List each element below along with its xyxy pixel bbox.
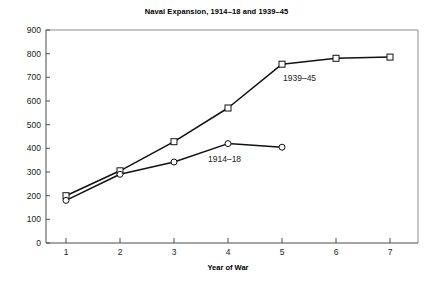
series-markers-1939-45 bbox=[63, 54, 393, 199]
x-tick-label: 7 bbox=[388, 247, 393, 257]
data-point-marker bbox=[171, 139, 177, 145]
data-point-marker bbox=[63, 197, 69, 203]
x-tick-label: 4 bbox=[226, 247, 231, 257]
y-tick-label: 100 bbox=[27, 214, 41, 224]
series-line-1914-18 bbox=[66, 144, 282, 201]
x-axis-tick-labels: 1 2 3 4 5 6 7 bbox=[64, 247, 393, 257]
data-point-marker bbox=[225, 105, 231, 111]
x-tick-label: 2 bbox=[118, 247, 123, 257]
y-tick-label: 800 bbox=[27, 49, 41, 59]
data-point-marker bbox=[387, 54, 393, 60]
y-tick-label: 200 bbox=[27, 191, 41, 201]
x-axis-ticks bbox=[66, 238, 390, 243]
x-tick-label: 6 bbox=[334, 247, 339, 257]
y-tick-label: 500 bbox=[27, 120, 41, 130]
y-tick-label: 900 bbox=[27, 25, 41, 35]
x-tick-label: 1 bbox=[64, 247, 69, 257]
series-annotation-1939-45: 1939–45 bbox=[283, 73, 316, 83]
y-tick-label: 600 bbox=[27, 96, 41, 106]
y-axis-ticks bbox=[46, 30, 50, 243]
y-tick-label: 400 bbox=[27, 143, 41, 153]
data-point-marker bbox=[117, 171, 123, 177]
data-point-marker bbox=[279, 144, 285, 150]
x-tick-label: 5 bbox=[280, 247, 285, 257]
data-point-marker bbox=[279, 61, 285, 67]
y-tick-label: 0 bbox=[36, 238, 41, 248]
data-point-marker bbox=[333, 55, 339, 61]
data-point-marker bbox=[225, 141, 231, 147]
x-axis-title: Year of War bbox=[208, 263, 249, 272]
line-chart-plot: 0 100 200 300 400 500 600 700 800 900 1 … bbox=[0, 0, 433, 281]
series-annotation-1914-18: 1914–18 bbox=[208, 154, 241, 164]
series-markers-1914-18 bbox=[63, 141, 285, 204]
series-line-1939-45 bbox=[66, 57, 390, 196]
x-tick-label: 3 bbox=[172, 247, 177, 257]
y-tick-label: 300 bbox=[27, 167, 41, 177]
y-tick-label: 700 bbox=[27, 72, 41, 82]
y-axis-tick-labels: 0 100 200 300 400 500 600 700 800 900 bbox=[27, 25, 41, 248]
chart-container: Naval Expansion, 1914–18 and 1939–45 0 1… bbox=[0, 0, 433, 281]
data-point-marker bbox=[171, 159, 177, 165]
